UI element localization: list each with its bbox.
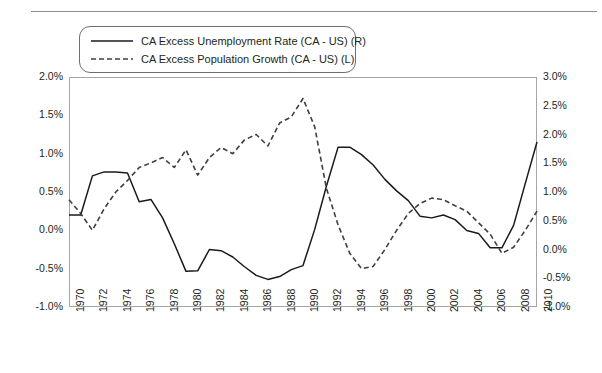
- right-axis-tick-3: 1.5%: [543, 156, 567, 168]
- left-axis-tick-3: 0.5%: [39, 185, 63, 197]
- chart-legend: CA Excess Unemployment Rate (CA - US) (R…: [79, 26, 356, 73]
- left-axis-tick-2: 1.0%: [39, 147, 63, 159]
- right-axis-tick-2: 2.0%: [543, 128, 567, 140]
- right-axis-tick-0: 3.0%: [543, 70, 567, 82]
- left-axis-tick-6: -1.0%: [36, 300, 63, 312]
- legend-key-dashed-line: [90, 54, 134, 64]
- right-axis-tick-6: 0.0%: [543, 243, 567, 255]
- left-axis-tick-4: 0.0%: [39, 223, 63, 235]
- legend-entry-population: CA Excess Population Growth (CA - US) (L…: [90, 51, 354, 67]
- legend-label-unemployment: CA Excess Unemployment Rate (CA - US) (R…: [141, 33, 366, 49]
- right-axis-tick-5: 0.5%: [543, 214, 567, 226]
- left-axis-tick-5: -0.5%: [36, 262, 63, 274]
- left-axis-tick-1: 1.5%: [39, 108, 63, 120]
- right-axis-tick-4: 1.0%: [543, 185, 567, 197]
- legend-label-population: CA Excess Population Growth (CA - US) (L…: [141, 51, 354, 67]
- series-lines: [69, 77, 537, 307]
- right-axis-tick-7: -0.5%: [543, 271, 570, 283]
- legend-key-solid-line: [90, 36, 134, 46]
- series-line-unemployment: [69, 142, 537, 279]
- left-axis-tick-0: 2.0%: [39, 70, 63, 82]
- right-axis-tick-1: 2.5%: [543, 99, 567, 111]
- chart-figure: 2.0%1.5%1.0%0.5%0.0%-0.5%-1.0% 3.0%2.5%2…: [0, 0, 602, 373]
- series-line-population: [69, 98, 537, 268]
- legend-entry-unemployment: CA Excess Unemployment Rate (CA - US) (R…: [90, 33, 366, 49]
- x-axis-tick-20: 2010: [542, 289, 554, 312]
- header-rule: [31, 11, 597, 12]
